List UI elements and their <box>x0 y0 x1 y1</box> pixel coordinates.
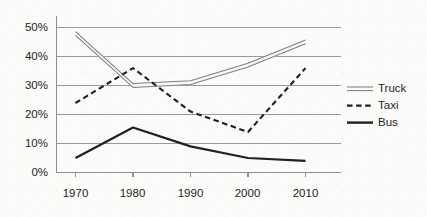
legend-label-taxi: Taxi <box>378 100 398 112</box>
series-truck-band <box>76 34 306 86</box>
ytick-label-50: 50% <box>8 22 48 34</box>
dashed-line-swatch <box>347 97 373 114</box>
chart-figure: 50% 40% 30% 20% 10% 0% 1970 1980 1990 20… <box>0 0 427 217</box>
xtick-label-2000: 2000 <box>223 188 272 200</box>
legend-label-bus: Bus <box>378 117 398 129</box>
solid-line-swatch <box>347 114 373 131</box>
legend-label-truck: Truck <box>378 83 406 95</box>
chart-legend: Truck Taxi Bus <box>347 80 423 131</box>
series-bus <box>76 128 306 161</box>
xtick-label-1970: 1970 <box>51 188 100 200</box>
xtick-label-1980: 1980 <box>108 188 157 200</box>
ytick-label-0: 0% <box>8 167 48 179</box>
legend-item-taxi: Taxi <box>347 97 423 114</box>
ytick-label-30: 30% <box>8 80 48 92</box>
ytick-label-20: 20% <box>8 109 48 121</box>
xtick-label-2010: 2010 <box>281 188 330 200</box>
series-truck-edge-lower <box>76 35 306 87</box>
axis-ticks <box>76 173 306 178</box>
double-line-swatch <box>347 80 373 97</box>
legend-item-bus: Bus <box>347 114 423 131</box>
xtick-label-1990: 1990 <box>166 188 215 200</box>
series-truck <box>76 32 306 88</box>
ytick-label-10: 10% <box>8 138 48 150</box>
series-taxi <box>76 68 306 132</box>
legend-item-truck: Truck <box>347 80 423 97</box>
ytick-label-40: 40% <box>8 51 48 63</box>
